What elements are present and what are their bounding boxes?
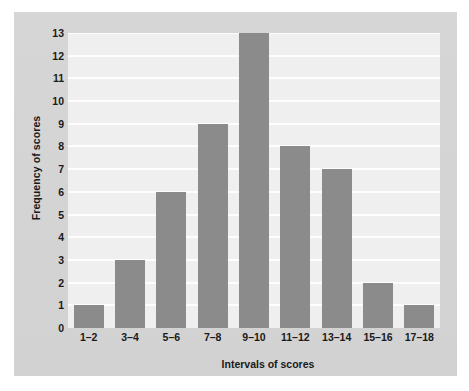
y-axis-tick-label: 12 [34, 50, 64, 61]
y-axis-tick-label: 3 [34, 255, 64, 266]
x-axis-tick-label: 5–6 [163, 331, 181, 343]
y-axis-tick-label: 1 [34, 300, 64, 311]
y-axis-tick-label: 10 [34, 96, 64, 107]
figure-root: Frequency of scores 012345678910111213 1… [0, 0, 469, 391]
bar [198, 124, 228, 328]
x-axis-tick-label: 13–14 [322, 331, 351, 343]
bar [280, 146, 310, 328]
x-axis-tick-labels: 1–23–45–67–89–1011–1213–1415–1617–18 [68, 331, 440, 349]
x-axis-tick-label: 11–12 [281, 331, 310, 343]
bar [115, 260, 145, 328]
x-axis-title: Intervals of scores [82, 358, 454, 370]
y-axis-tick-labels: 012345678910111213 [34, 33, 64, 328]
y-axis-tick-label: 11 [34, 73, 64, 84]
y-axis-tick-label: 5 [34, 209, 64, 220]
bar [363, 283, 393, 328]
chart-panel: Frequency of scores 012345678910111213 1… [14, 12, 457, 376]
bar [404, 305, 434, 328]
bar [74, 305, 104, 328]
x-axis-tick-label: 7–8 [204, 331, 222, 343]
y-axis-tick-label: 7 [34, 164, 64, 175]
x-axis-tick-label: 15–16 [363, 331, 392, 343]
y-axis-tick-label: 8 [34, 141, 64, 152]
y-axis-tick-label: 6 [34, 187, 64, 198]
bar [156, 192, 186, 328]
x-axis-tick-label: 1–2 [80, 331, 98, 343]
y-axis-tick-label: 2 [34, 277, 64, 288]
x-axis-tick-label: 3–4 [121, 331, 139, 343]
bars-layer [68, 33, 440, 328]
x-axis-tick-label: 9–10 [242, 331, 265, 343]
plot-area [68, 33, 440, 328]
bar [239, 33, 269, 328]
y-axis-tick-label: 13 [34, 28, 64, 39]
bar [322, 169, 352, 328]
y-axis-tick-label: 0 [34, 323, 64, 334]
y-axis-tick-label: 4 [34, 232, 64, 243]
x-axis-tick-label: 17–18 [405, 331, 434, 343]
y-axis-tick-label: 9 [34, 119, 64, 130]
